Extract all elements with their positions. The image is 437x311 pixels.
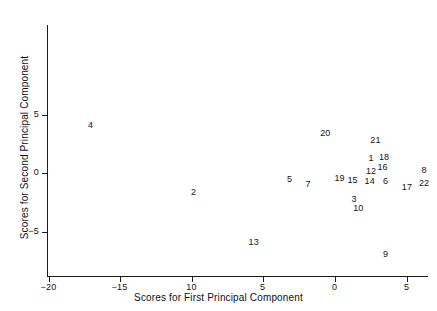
data-point-label: 18 [379,152,389,162]
x-tick-label: 10 [177,282,207,292]
data-point-label: 7 [306,179,311,189]
data-point-label: 10 [353,203,363,213]
data-point-label: 2 [191,187,196,197]
data-point-label: 20 [320,128,330,138]
data-point-label: 8 [422,165,427,175]
scatter-plot-figure: 50−5 −20−1510505 42021118121658151461971… [0,0,437,311]
data-point-label: 17 [402,182,412,192]
data-point-label: 4 [88,120,93,130]
data-point-label: 9 [383,249,388,259]
x-tick-label: −20 [34,282,64,292]
y-axis-line [47,25,48,277]
x-axis-line [47,276,428,277]
y-tick-mark [42,232,47,233]
data-point-label: 15 [347,175,357,185]
data-point-label: 22 [419,178,429,188]
data-point-label: 5 [287,174,292,184]
data-point-label: 6 [383,176,388,186]
x-tick-label: 5 [392,282,422,292]
data-point-label: 19 [335,173,345,183]
data-point-label: 16 [377,162,387,172]
data-point-label: 14 [365,176,375,186]
plot-area: 50−5 −20−1510505 42021118121658151461971… [0,0,437,311]
x-tick-label: −15 [105,282,135,292]
data-point-label: 12 [366,166,376,176]
x-tick-label: 5 [248,282,278,292]
y-tick-mark [42,115,47,116]
data-point-label: 13 [249,237,259,247]
data-point-label: 1 [369,153,374,163]
x-tick-label: 0 [320,282,350,292]
y-tick-mark [42,173,47,174]
y-axis-title: Scores for Second Principal Component [19,38,30,258]
data-point-label: 21 [370,135,380,145]
x-axis-title: Scores for First Principal Component [0,292,437,303]
